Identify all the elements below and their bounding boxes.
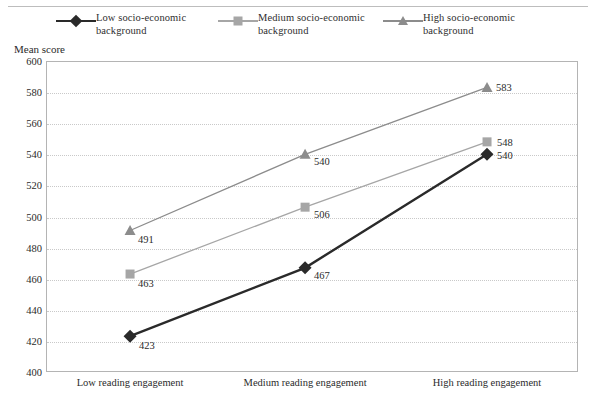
x-tick-label: Low reading engagement (77, 377, 184, 388)
y-tick-label: 400 (8, 367, 42, 378)
x-tick-label: Medium reading engagement (244, 377, 367, 388)
triangle-marker-icon (125, 225, 136, 235)
triangle-marker-icon (482, 82, 493, 92)
data-point-label: 540 (314, 156, 330, 167)
diamond-marker-icon (299, 261, 312, 274)
triangle-marker-icon (300, 149, 311, 159)
data-point-label: 583 (496, 82, 512, 93)
series-line (130, 154, 487, 336)
legend-label-medium: Medium socio-economic background (258, 12, 390, 37)
data-point-label: 423 (139, 340, 155, 351)
chart-legend: Low socio-economic background Medium soc… (0, 12, 596, 46)
diamond-marker-icon (481, 148, 494, 161)
diamond-marker-icon (70, 15, 83, 28)
triangle-marker-icon (398, 16, 408, 25)
data-point-label: 548 (497, 136, 513, 147)
legend-item-low: Low socio-economic background (56, 12, 228, 37)
top-divider (8, 6, 588, 7)
y-tick-label: 460 (8, 273, 42, 284)
diamond-marker-icon (124, 330, 137, 343)
square-marker-icon (483, 137, 492, 146)
y-tick-label: 440 (8, 304, 42, 315)
data-point-label: 540 (497, 150, 513, 161)
square-marker-icon (301, 203, 310, 212)
square-marker-icon (234, 17, 243, 26)
legend-label-high: High socio-economic background (423, 12, 555, 37)
square-marker-icon (126, 270, 135, 279)
y-tick-label: 500 (8, 211, 42, 222)
series-layer (46, 61, 578, 372)
data-point-label: 506 (314, 209, 330, 220)
data-point-label: 463 (138, 278, 154, 289)
legend-key-high (383, 13, 423, 29)
data-point-label: 491 (138, 234, 154, 245)
y-tick-label: 580 (8, 87, 42, 98)
legend-label-low: Low socio-economic background (96, 12, 228, 37)
y-axis-ticks: 400420440460480500520540560580600 (0, 61, 42, 372)
y-tick-label: 560 (8, 118, 42, 129)
x-tick-label: High reading engagement (433, 377, 541, 388)
chart-container: Low socio-economic background Medium soc… (0, 0, 596, 396)
data-point-label: 467 (314, 269, 330, 280)
legend-item-medium: Medium socio-economic background (218, 12, 390, 37)
y-tick-label: 520 (8, 180, 42, 191)
y-tick-label: 540 (8, 149, 42, 160)
y-tick-label: 420 (8, 335, 42, 346)
y-axis-title: Mean score (14, 43, 65, 55)
x-axis-labels: Low reading engagementMedium reading eng… (0, 377, 596, 395)
legend-item-high: High socio-economic background (383, 12, 555, 37)
legend-key-low (56, 13, 96, 29)
legend-key-medium (218, 13, 258, 29)
y-tick-label: 480 (8, 242, 42, 253)
y-tick-label: 600 (8, 56, 42, 67)
